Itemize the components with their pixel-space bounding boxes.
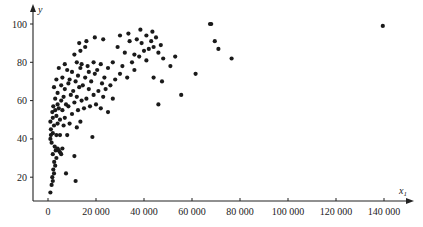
- data-point: [159, 43, 163, 47]
- data-point: [137, 55, 141, 59]
- y-tick-label: 100: [12, 19, 27, 30]
- data-point: [53, 108, 57, 112]
- data-point: [56, 102, 60, 106]
- data-point: [142, 49, 146, 53]
- data-point: [111, 97, 115, 101]
- data-point: [72, 154, 76, 158]
- data-point: [52, 171, 56, 175]
- data-point: [53, 145, 57, 149]
- data-point: [60, 146, 64, 150]
- data-point: [118, 33, 122, 37]
- data-point: [68, 77, 72, 81]
- data-point: [57, 66, 61, 70]
- data-point: [56, 91, 60, 95]
- x-axis-label-sub: 1: [403, 190, 407, 198]
- data-point: [147, 47, 151, 51]
- data-point: [94, 102, 98, 106]
- data-point: [154, 35, 158, 39]
- data-point: [96, 89, 100, 93]
- data-point: [102, 76, 106, 80]
- data-point: [111, 60, 115, 64]
- data-point: [179, 93, 183, 97]
- data-point: [66, 81, 70, 85]
- data-point: [56, 122, 60, 126]
- data-point: [126, 31, 130, 35]
- data-point: [86, 64, 90, 68]
- data-point: [54, 156, 58, 160]
- data-point: [59, 83, 63, 87]
- data-point: [48, 190, 52, 194]
- data-point: [216, 47, 220, 51]
- x-tick-label: 40 000: [130, 206, 158, 217]
- data-point: [69, 93, 73, 97]
- data-point: [78, 120, 82, 124]
- data-point: [58, 133, 62, 137]
- data-point: [152, 45, 156, 49]
- data-point: [65, 68, 69, 72]
- data-point: [48, 137, 52, 141]
- data-point: [76, 108, 80, 112]
- data-point: [51, 167, 55, 171]
- data-point: [100, 81, 104, 85]
- data-point: [92, 60, 96, 64]
- data-point: [59, 152, 63, 156]
- data-point: [140, 41, 144, 45]
- data-point: [106, 110, 110, 114]
- data-point: [84, 39, 88, 43]
- data-point: [76, 74, 80, 78]
- data-point: [156, 51, 160, 55]
- data-point: [132, 53, 136, 57]
- data-point: [54, 114, 58, 118]
- data-point: [68, 122, 72, 126]
- data-point: [83, 76, 87, 80]
- data-point: [51, 131, 55, 135]
- data-point: [53, 97, 57, 101]
- data-point: [70, 70, 74, 74]
- data-point: [63, 116, 67, 120]
- data-point: [78, 49, 82, 53]
- data-point: [78, 66, 82, 70]
- y-tick-label: 40: [17, 133, 27, 144]
- data-point: [128, 39, 132, 43]
- data-point: [83, 45, 87, 49]
- data-point: [113, 77, 117, 81]
- data-point: [60, 76, 64, 80]
- data-point: [90, 135, 94, 139]
- data-point: [75, 125, 79, 129]
- data-point: [230, 56, 234, 60]
- data-point: [118, 72, 122, 76]
- data-point: [65, 133, 69, 137]
- x-axis-arrow-icon: [406, 198, 414, 204]
- data-point: [132, 68, 136, 72]
- data-point: [72, 100, 76, 104]
- data-point: [93, 35, 97, 39]
- data-point: [59, 99, 63, 103]
- x-axis-label: x1: [398, 185, 407, 198]
- data-point: [77, 41, 81, 45]
- data-point: [50, 183, 54, 187]
- data-point: [120, 64, 124, 68]
- data-point: [57, 106, 61, 110]
- data-point: [106, 66, 110, 70]
- data-point: [75, 95, 79, 99]
- data-point: [87, 87, 91, 91]
- x-tick-label: 120 000: [320, 206, 353, 217]
- data-point: [92, 93, 96, 97]
- data-point: [48, 120, 52, 124]
- data-point: [123, 51, 127, 55]
- data-point: [144, 33, 148, 37]
- data-point: [70, 112, 74, 116]
- x-tick-label: 60 000: [178, 206, 206, 217]
- data-point: [62, 123, 66, 127]
- data-points: [48, 22, 385, 195]
- y-tick-label: 60: [17, 95, 27, 106]
- data-point: [213, 39, 217, 43]
- data-point: [101, 37, 105, 41]
- data-point: [51, 104, 55, 108]
- data-point: [54, 133, 58, 137]
- data-point: [84, 97, 88, 101]
- data-point: [87, 70, 91, 74]
- data-point: [52, 85, 56, 89]
- data-point: [74, 79, 78, 83]
- data-point: [156, 102, 160, 106]
